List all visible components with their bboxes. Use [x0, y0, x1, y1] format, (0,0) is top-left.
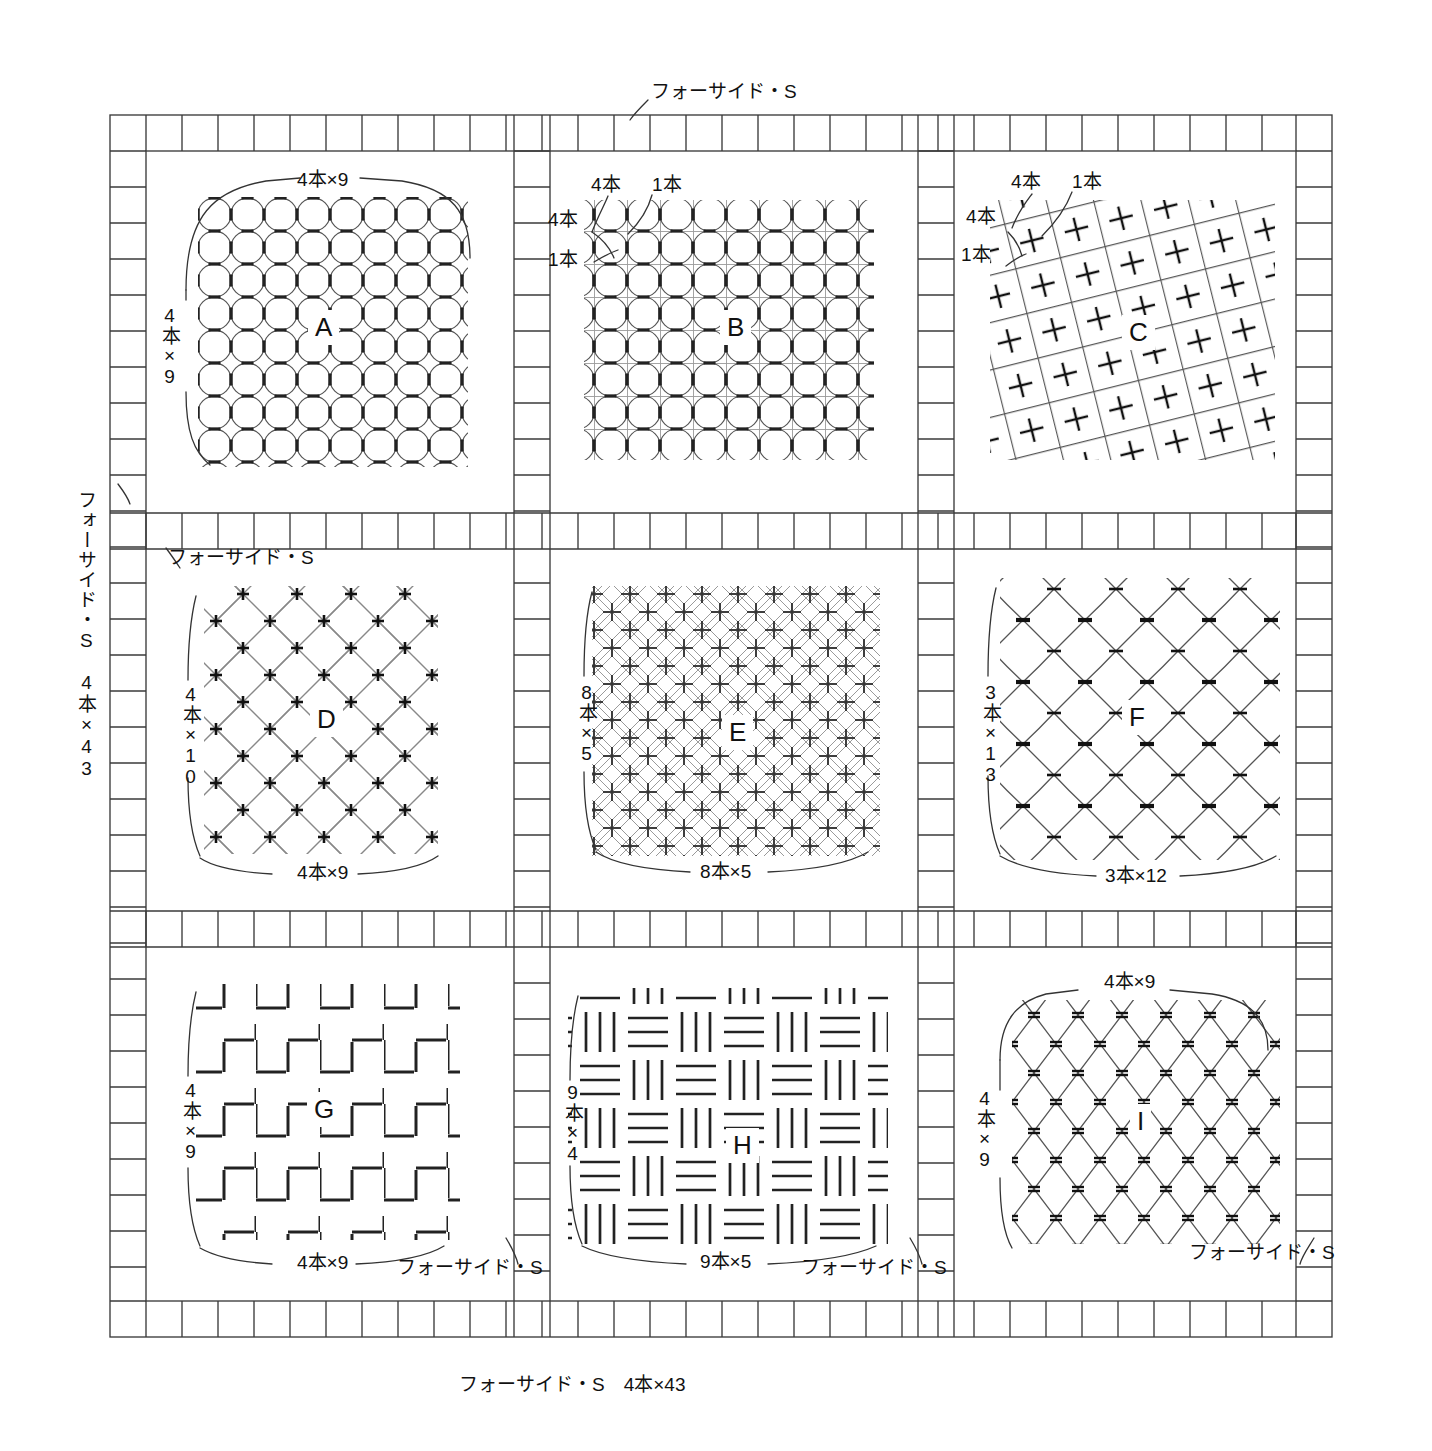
inner-label-i-bottom: フォーサイド・S: [1189, 1243, 1335, 1263]
inner-label-g-bottom: フォーサイド・S: [397, 1258, 543, 1278]
panel-B-top-label-4hon: 4本: [591, 175, 621, 195]
margin-label-left: フォーサイド・S 4本×43: [76, 490, 96, 780]
divider-strip-horizontal-1: [110, 513, 1332, 549]
panel-I-top-label: 4本×9: [1104, 972, 1155, 992]
panel-A-top-label: 4本×9: [297, 170, 348, 190]
panel-A-letter: A: [308, 310, 339, 345]
panel-C-left-label-4hon: 4本: [966, 207, 996, 227]
panel-D-letter: D: [310, 702, 343, 737]
panel-C-top-label-4hon: 4本: [1011, 172, 1041, 192]
panel-C-letter: C: [1122, 315, 1155, 350]
panel-F-left-label: 3本×13: [981, 682, 1000, 785]
panel-B-left-label-4hon: 4本: [548, 210, 578, 230]
panel-D-bottom-label: 4本×9: [297, 863, 348, 883]
swatch-H: [568, 988, 888, 1244]
panel-I-left-label: 4本×9: [975, 1088, 994, 1170]
inner-label-h-bottom: フォーサイド・S: [801, 1258, 947, 1278]
panel-E-letter: E: [722, 715, 753, 750]
panel-H-left-label: 9本×4: [563, 1082, 582, 1164]
ladder-rungs-left: [110, 151, 146, 1301]
panel-I-letter: I: [1130, 1104, 1151, 1139]
panel-D-left-label: 4本×10: [181, 684, 200, 787]
panel-F-bottom-label: 3本×12: [1105, 866, 1167, 886]
sashiko-diagram-svg: [0, 0, 1432, 1451]
ladder-rungs-right: [1296, 151, 1332, 1301]
panel-G-letter: G: [307, 1092, 341, 1127]
panel-E-bottom-label: 8本×5: [700, 862, 751, 882]
inner-label-row2-left: フォーサイド・S: [168, 548, 314, 568]
panel-G-left-label: 4本×9: [181, 1080, 200, 1162]
ladder-rungs-top: [146, 115, 1296, 151]
divider-strip-vertical-1: [514, 115, 550, 1337]
panel-E-left-label: 8本×5: [577, 682, 596, 764]
panel-B-top-label-1hon: 1本: [652, 175, 682, 195]
divider-strip-vertical-2: [918, 115, 954, 1337]
panel-H-bottom-label: 9本×5: [700, 1252, 751, 1272]
margin-label-top: フォーサイド・S: [651, 82, 797, 102]
divider-strip-horizontal-2: [110, 911, 1332, 947]
panel-C-left-label-1hon: 1本: [961, 245, 991, 265]
panel-B-letter: B: [720, 310, 751, 345]
panel-B-left-label-1hon: 1本: [548, 250, 578, 270]
diagram-sheet: フォーサイド・S フォーサイド・S 4本×43 フォーサイド・S 4本×43 フ…: [0, 0, 1432, 1451]
margin-label-bottom: フォーサイド・S 4本×43: [459, 1375, 685, 1395]
panel-A-left-label: 4本×9: [160, 305, 179, 387]
panel-H-letter: H: [726, 1128, 759, 1163]
panel-G-bottom-label: 4本×9: [297, 1253, 348, 1273]
panel-C-top-label-1hon: 1本: [1072, 172, 1102, 192]
ladder-rungs-bottom: [146, 1301, 1296, 1337]
panel-F-letter: F: [1122, 700, 1152, 735]
